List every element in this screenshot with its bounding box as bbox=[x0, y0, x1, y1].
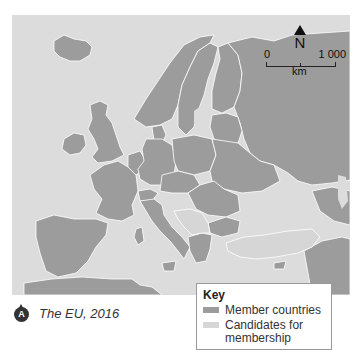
scale-bar: 0 1 000 km bbox=[262, 48, 342, 78]
iberia bbox=[36, 215, 108, 277]
map-title: The EU, 2016 bbox=[39, 306, 119, 321]
black-sea bbox=[244, 193, 308, 223]
member-swatch bbox=[203, 307, 219, 313]
iceland bbox=[54, 35, 92, 61]
figure-badge-icon: A bbox=[14, 305, 29, 322]
legend-label: Candidates for membership bbox=[225, 319, 325, 345]
cyprus bbox=[274, 261, 286, 269]
legend-title: Key bbox=[203, 288, 325, 302]
badge-letter: A bbox=[14, 309, 29, 319]
legend-label: Member countries bbox=[225, 304, 321, 317]
scale-max-label: 1 000 bbox=[318, 48, 346, 60]
great-britain bbox=[88, 101, 124, 163]
north-africa bbox=[24, 277, 162, 295]
greece bbox=[188, 233, 212, 263]
sardinia bbox=[134, 227, 144, 245]
poland bbox=[172, 135, 216, 175]
bulgaria bbox=[208, 217, 240, 237]
switzerland bbox=[138, 189, 158, 201]
scale-min-label: 0 bbox=[264, 48, 270, 60]
candidate-swatch bbox=[203, 322, 219, 328]
scale-unit: km bbox=[292, 65, 307, 77]
legend-item-member: Member countries bbox=[203, 304, 325, 317]
ireland bbox=[62, 133, 86, 155]
north-arrow: N bbox=[290, 25, 310, 50]
sicily bbox=[162, 261, 176, 271]
map-caption: A The EU, 2016 bbox=[14, 302, 119, 324]
map-legend: Key Member countries Candidates for memb… bbox=[196, 283, 332, 350]
italy bbox=[140, 199, 190, 259]
legend-item-candidate: Candidates for membership bbox=[203, 319, 325, 345]
